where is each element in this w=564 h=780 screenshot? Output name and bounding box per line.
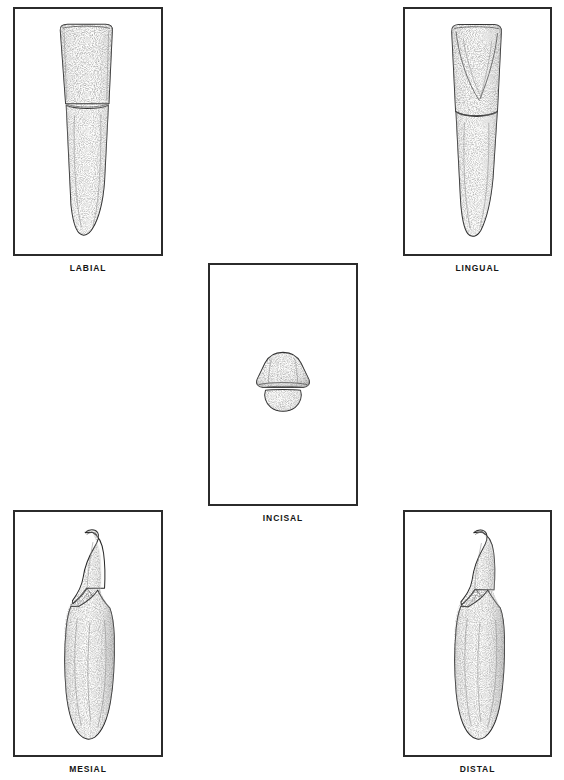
view-labial-caption: LABIAL xyxy=(13,263,163,273)
view-distal-illustration xyxy=(405,512,550,755)
view-mesial-caption: MESIAL xyxy=(13,764,163,774)
view-lingual-caption: LINGUAL xyxy=(403,263,552,273)
dental-anatomy-plate: LABIAL xyxy=(0,0,564,780)
view-incisal-frame xyxy=(208,263,358,506)
tooth-incisal-drawing xyxy=(210,265,356,504)
tooth-distal-drawing xyxy=(405,512,550,755)
tooth-lingual-drawing xyxy=(405,9,550,254)
view-incisal-illustration xyxy=(210,265,356,504)
view-lingual-frame xyxy=(403,7,552,256)
view-labial-frame xyxy=(13,7,163,256)
view-lingual-illustration xyxy=(405,9,550,254)
tooth-labial-drawing xyxy=(15,9,161,254)
view-mesial-illustration xyxy=(15,512,161,755)
view-incisal-caption: INCISAL xyxy=(208,513,358,523)
tooth-mesial-drawing xyxy=(15,512,161,755)
view-labial-illustration xyxy=(15,9,161,254)
view-distal-frame xyxy=(403,510,552,757)
view-distal-caption: DISTAL xyxy=(403,764,552,774)
view-mesial-frame xyxy=(13,510,163,757)
